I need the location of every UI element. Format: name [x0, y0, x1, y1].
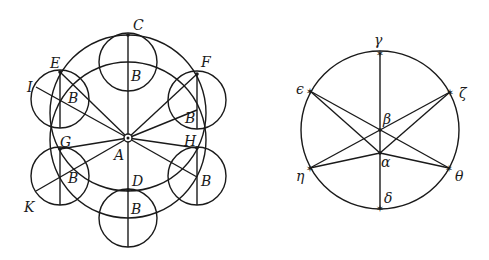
label-a: A: [112, 147, 124, 163]
label-b-f: B: [184, 110, 195, 126]
label-eta: η: [296, 168, 305, 184]
label-theta: θ: [455, 168, 464, 184]
label-k: K: [23, 199, 36, 215]
star-delta: ✶: [376, 203, 384, 214]
right-figure: ✶ ✶ ✶ ✶ ✶ ✶ γ ϵ ζ β α η θ δ: [296, 32, 468, 214]
label-alpha: α: [381, 154, 391, 170]
line-eta-alpha: [310, 153, 380, 168]
line-epsilon-alpha: [310, 91, 380, 153]
left-figure: C E F I G H A D K B B B B B B: [23, 17, 226, 247]
point-beta: [378, 128, 382, 132]
label-f: F: [200, 54, 212, 70]
label-gamma: γ: [374, 32, 383, 48]
star-gamma: ✶: [376, 48, 384, 59]
point-d: [126, 188, 130, 192]
label-epsilon: ϵ: [296, 81, 304, 97]
label-c: C: [133, 17, 144, 33]
label-b-g: B: [67, 170, 78, 186]
label-b-c: B: [130, 68, 141, 84]
point-c: [126, 33, 130, 37]
label-beta: β: [382, 111, 391, 127]
label-e: E: [49, 55, 60, 71]
center-a-dot: [127, 137, 130, 140]
star-epsilon: ✶: [306, 86, 314, 97]
star-eta: ✶: [306, 163, 314, 174]
point-f: [195, 72, 199, 76]
label-b-e: B: [67, 90, 78, 106]
label-zeta: ζ: [459, 85, 468, 101]
label-h: H: [183, 133, 197, 149]
label-delta: δ: [384, 190, 392, 206]
star-zeta: ✶: [446, 87, 454, 98]
label-d: D: [131, 173, 143, 189]
diagram-canvas: C E F I G H A D K B B B B B B ✶ ✶ ✶ ✶ ✶ …: [0, 0, 489, 260]
label-b-h: B: [200, 173, 211, 189]
label-b-d: B: [130, 201, 141, 217]
label-i: I: [26, 79, 33, 95]
label-g: G: [60, 134, 71, 150]
star-theta: ✶: [445, 163, 453, 174]
